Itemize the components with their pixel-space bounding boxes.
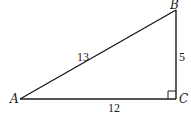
vertex-label-c: C (179, 92, 188, 106)
vertex-label-a: A (9, 92, 19, 106)
side-label-ab: 13 (77, 50, 89, 64)
side-ab (20, 10, 176, 99)
side-label-bc: 5 (179, 50, 185, 64)
right-angle-marker (168, 91, 176, 99)
right-triangle-diagram: A B C 13 5 12 (0, 0, 191, 125)
side-label-ac: 12 (108, 101, 120, 115)
vertex-label-b: B (169, 0, 179, 12)
